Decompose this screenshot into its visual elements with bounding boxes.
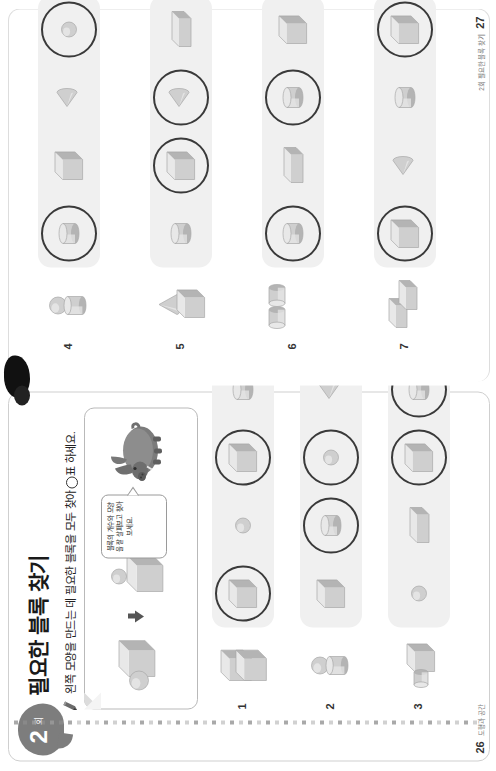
instruction-text-before: 왼쪽 모양을 만드는 데 필요한 블록을 모두 찾아 [65, 489, 77, 693]
instruction-row: 왼쪽 모양을 만드는 데 필요한 블록을 모두 찾아표 하세요. [62, 431, 78, 713]
left-footer-text: 도형과 공간 [476, 704, 486, 736]
option-sphere[interactable] [388, 559, 450, 627]
speech-bubble-text: 블록의 개수와 모양을 잘 살펴보고 찾아 보세요. [106, 500, 134, 552]
instruction-text-after: 표 하세요. [65, 431, 77, 475]
left-page: 2 회 필요한 블록 찾기 왼쪽 모양을 만드는 데 필요한 블록을 모두 찾아… [0, 385, 496, 771]
option-sphere[interactable] [212, 491, 274, 559]
option-shape-cube [279, 15, 307, 43]
option-shape-cube [317, 579, 345, 607]
left-page-footer: 26 도형과 공간 [474, 704, 486, 753]
option-cylinder[interactable] [374, 63, 436, 131]
option-shape-box [410, 508, 429, 543]
problem-number: 6 [286, 343, 298, 349]
example-illustration [111, 553, 161, 690]
option-cone[interactable] [374, 131, 436, 199]
option-shape-cylinder [283, 223, 303, 243]
option-shape-cylinder [283, 87, 303, 107]
option-shape-cylinder [395, 87, 415, 107]
option-shape-cone [58, 87, 80, 107]
folded-corner-inner-icon [84, 692, 101, 709]
option-shape-sphere [235, 517, 251, 533]
target-shape-sphere-on-cylinder [300, 635, 362, 693]
circle-mark-icon [66, 476, 78, 488]
option-cylinder[interactable] [150, 199, 212, 267]
right-page: 4567 2회 필요한 블록 찾기 27 [0, 0, 496, 385]
problem-2: 2 [300, 347, 362, 709]
option-cylinder-circled[interactable] [38, 199, 100, 267]
option-shape-cylinder [171, 223, 191, 243]
problem-number: 2 [324, 703, 336, 709]
option-shape-cone [394, 155, 416, 175]
option-shape-cylinder [321, 515, 341, 535]
example-card: 블록의 개수와 모양을 잘 살펴보고 찾아 보세요. [84, 407, 198, 709]
pencil-icon [60, 696, 79, 715]
problem-4: 4 [38, 0, 100, 349]
option-cube-circled[interactable] [388, 423, 450, 491]
option-cone[interactable] [38, 63, 100, 131]
option-cube-circled[interactable] [150, 131, 212, 199]
option-box[interactable] [262, 131, 324, 199]
problem-number: 4 [62, 343, 74, 349]
unit-badge: 2 회 [18, 703, 64, 755]
scan-artifact-small [14, 385, 30, 405]
option-shape-cone [170, 87, 192, 107]
option-shape-cube [55, 151, 83, 179]
option-shape-box [172, 12, 191, 47]
option-sphere-circled[interactable] [300, 423, 362, 491]
option-bar [300, 355, 362, 627]
problem-6: 6 [262, 0, 324, 349]
option-cylinder-circled[interactable] [262, 63, 324, 131]
problem-3: 3 [388, 347, 450, 709]
option-bar [38, 0, 100, 267]
option-shape-sphere [411, 585, 427, 601]
option-bar [262, 0, 324, 267]
option-shape-cube [405, 443, 433, 471]
down-arrow-icon [128, 609, 144, 622]
right-page-number: 27 [474, 16, 486, 28]
option-cube[interactable] [262, 0, 324, 63]
target-shape-two-cylinders [262, 275, 324, 333]
workbook-spread: 2 회 필요한 블록 찾기 왼쪽 모양을 만드는 데 필요한 블록을 모두 찾아… [0, 0, 496, 771]
problem-number: 5 [174, 343, 186, 349]
option-cube[interactable] [300, 559, 362, 627]
example-combined-shape [119, 638, 153, 690]
left-page-number: 26 [474, 741, 486, 753]
problem-number: 1 [236, 703, 248, 709]
option-box[interactable] [150, 0, 212, 63]
option-cube-circled[interactable] [212, 559, 274, 627]
option-shape-cube [167, 151, 195, 179]
option-shape-cube [229, 579, 257, 607]
scanned-page-frame: 2 회 필요한 블록 찾기 왼쪽 모양을 만드는 데 필요한 블록을 모두 찾아… [0, 0, 496, 771]
option-bar [388, 355, 450, 627]
option-shape-cube [391, 219, 419, 247]
option-shape-sphere [323, 449, 339, 465]
option-shape-cylinder [59, 223, 79, 243]
target-shape-cube-stack [212, 635, 274, 693]
problem-1: 1 [212, 347, 274, 709]
problem-7: 7 [374, 0, 436, 349]
option-cone-circled[interactable] [150, 63, 212, 131]
boar-mascot-icon [103, 420, 165, 486]
option-cube[interactable] [38, 131, 100, 199]
option-sphere-circled[interactable] [38, 0, 100, 63]
target-shape-cone-on-cube [150, 275, 212, 333]
option-bar [374, 0, 436, 267]
right-footer-text: 2회 필요한 블록 찾기 [476, 33, 486, 90]
option-cylinder-circled[interactable] [300, 491, 362, 559]
option-bar [150, 0, 212, 267]
unit-number: 2 [27, 730, 51, 743]
option-shape-cube [391, 15, 419, 43]
option-box[interactable] [388, 491, 450, 559]
dotted-divider [14, 719, 482, 724]
option-cylinder-circled[interactable] [262, 199, 324, 267]
option-cube-circled[interactable] [212, 423, 274, 491]
right-page-footer: 2회 필요한 블록 찾기 27 [474, 16, 486, 90]
problem-5: 5 [150, 0, 212, 349]
target-shape-two-boxes-l [374, 275, 436, 333]
option-cube-circled[interactable] [374, 199, 436, 267]
target-shape-cylinder-and-box [388, 635, 450, 693]
option-shape-sphere [61, 21, 77, 37]
option-bar [212, 355, 274, 627]
problem-number: 7 [398, 343, 410, 349]
option-cube-circled[interactable] [374, 0, 436, 63]
